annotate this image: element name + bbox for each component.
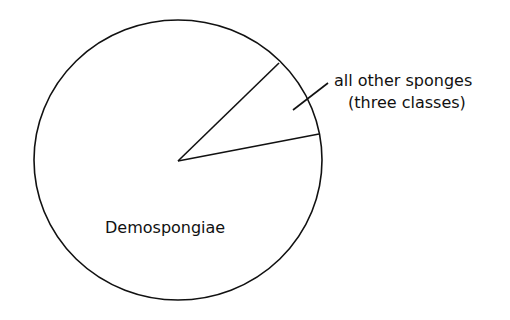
label-demospongiae: Demospongiae: [105, 218, 225, 237]
label-other-line1: all other sponges: [334, 71, 472, 90]
pie-chart: [0, 0, 510, 320]
label-other-line2: (three classes): [348, 93, 466, 112]
